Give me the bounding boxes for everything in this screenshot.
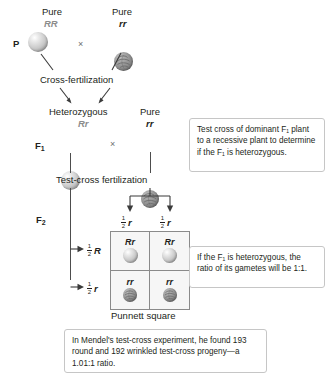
generation-label-f2: F2	[36, 214, 46, 225]
gamete-allele: r	[167, 217, 171, 228]
punnett-square-caption: Punnett square	[111, 310, 175, 321]
callout-middle: If the F₁ is heterozygous, the ratio of …	[189, 246, 325, 288]
punnett-cell: Rr	[150, 232, 189, 271]
wrinkle-texture-icon	[123, 288, 137, 302]
punnett-square: Rr Rr rr rr	[110, 231, 190, 310]
fraction-one-half: 1 2	[121, 215, 126, 229]
gamete-allele: R	[94, 245, 101, 256]
callout-bottom: In Mendel's test-cross experiment, he fo…	[64, 329, 267, 373]
punnett-cell-genotype: rr	[166, 278, 173, 287]
gamete-column-left-label: 1 2 r	[121, 215, 132, 229]
gamete-row-top-label: 1 2 R	[87, 243, 101, 257]
gamete-row-bottom-label: 1 2 r	[87, 281, 98, 295]
punnett-cell-genotype: Rr	[125, 238, 135, 247]
round-seed-icon	[123, 248, 138, 263]
fraction-one-half: 1 2	[160, 215, 165, 229]
gamete-allele: r	[128, 217, 132, 228]
fraction-one-half: 1 2	[87, 281, 92, 295]
callout-bottom-text: In Mendel's test-cross experiment, he fo…	[72, 335, 260, 369]
punnett-cell: Rr	[111, 232, 150, 271]
f2-gamete-arrows	[0, 0, 331, 383]
round-seed-icon	[162, 248, 177, 263]
f2-letter: F	[36, 214, 42, 225]
wrinkled-seed-icon	[123, 288, 137, 302]
figure-canvas: Pure RR Pure rr P × Cross-fertilization …	[0, 0, 331, 383]
callout-top: Test cross of dominant F₁ plant to a rec…	[189, 118, 325, 172]
gamete-column-right-label: 1 2 r	[160, 215, 171, 229]
wrinkle-texture-icon	[163, 288, 177, 302]
punnett-cell: rr	[111, 271, 150, 310]
callout-top-text: Test cross of dominant F₁ plant to a rec…	[197, 124, 318, 158]
punnett-cell-genotype: rr	[126, 278, 133, 287]
callout-middle-text: If the F₁ is heterozygous, the ratio of …	[197, 252, 318, 275]
f2-subscript: 2	[42, 219, 46, 226]
gamete-allele: r	[94, 283, 98, 294]
wrinkled-seed-icon	[163, 288, 177, 302]
fraction-one-half: 1 2	[87, 243, 92, 257]
punnett-cell-genotype: Rr	[164, 238, 174, 247]
punnett-cell: rr	[150, 271, 189, 310]
